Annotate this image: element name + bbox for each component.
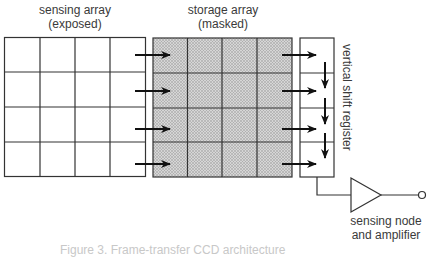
vertical-shift-register (300, 38, 334, 177)
amplifier-label-line2: and amplifier (340, 228, 432, 242)
output-node-icon (419, 192, 426, 199)
shift-register-label: vertical shift register (340, 44, 354, 151)
figure-caption: Figure 3. Frame-transfer CCD architectur… (60, 243, 285, 257)
amplifier-circuit (317, 177, 426, 212)
storage-array (153, 38, 292, 177)
amplifier-triangle-icon (351, 178, 381, 212)
sensing-array (5, 38, 146, 177)
amplifier-label-line1: sensing node (340, 214, 432, 228)
amplifier-label: sensing node and amplifier (340, 214, 432, 242)
